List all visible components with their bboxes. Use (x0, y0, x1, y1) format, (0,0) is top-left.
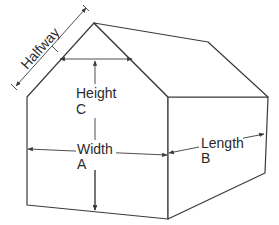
width-var-label: A (77, 156, 87, 172)
length-label: Length (201, 135, 244, 151)
length-var-label: B (201, 150, 210, 166)
height-var-label: C (76, 101, 86, 117)
building-dimension-diagram: Halfway Height C Width A Length B (0, 0, 279, 225)
width-label: Width (77, 141, 113, 157)
height-label: Height (76, 85, 117, 101)
building-outline (27, 23, 268, 219)
